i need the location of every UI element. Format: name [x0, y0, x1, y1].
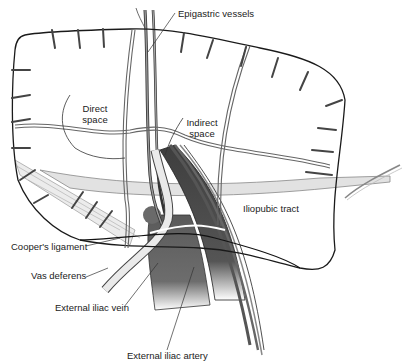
diagram-canvas: Epigastric vessels Direct space Indirect… — [0, 0, 405, 364]
label-vas-deferens: Vas deferens — [31, 270, 86, 281]
label-external-iliac-vein: External iliac vein — [55, 302, 129, 313]
label-epigastric-vessels: Epigastric vessels — [178, 8, 254, 19]
label-direct-space-line1: Direct — [80, 103, 110, 114]
label-indirect-space-line2: space — [182, 128, 222, 139]
label-external-iliac-artery: External iliac artery — [127, 350, 208, 361]
label-direct-space-line2: space — [78, 114, 112, 125]
label-iliopubic-tract: Iliopubic tract — [243, 203, 299, 214]
label-indirect-space-line1: Indirect — [182, 117, 222, 128]
label-coopers-ligament: Cooper's ligament — [11, 241, 87, 252]
